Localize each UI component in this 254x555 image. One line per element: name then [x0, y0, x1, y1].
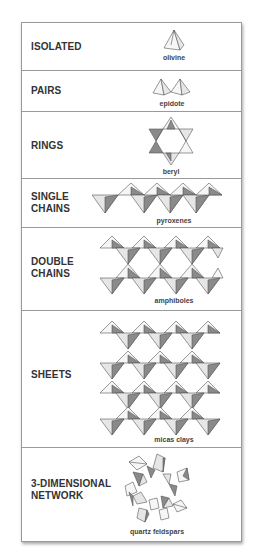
ring-structure-icon — [148, 116, 194, 166]
row-label: PAIRS — [31, 85, 61, 97]
example-mineral: amphiboles — [114, 297, 234, 304]
example-mineral: pyroxenes — [114, 217, 234, 224]
tetrahedron-icon — [162, 28, 186, 52]
row-label: DOUBLE CHAINS — [31, 256, 74, 280]
row-pairs: PAIRS epidote — [22, 70, 241, 111]
example-mineral: epidote — [112, 100, 232, 107]
silicate-structures-table: ISOLATED olivine PAIRS epidote RINGS — [21, 22, 242, 542]
row-label: SHEETS — [31, 369, 72, 381]
row-single-chains: SINGLE CHAINS pyroxenes — [22, 178, 241, 227]
tetrahedron-pair-icon — [152, 77, 192, 97]
example-mineral: micas clays — [114, 436, 234, 443]
example-mineral: beryl — [111, 168, 231, 175]
row-sheets: SHEETS m — [22, 310, 241, 447]
row-label: 3-DIMENSIONAL NETWORK — [31, 478, 111, 502]
framework-structure-icon — [119, 452, 195, 524]
single-chain-icon — [92, 183, 224, 217]
row-isolated: ISOLATED olivine — [22, 23, 241, 70]
example-mineral: quartz feldspars — [97, 528, 217, 535]
row-label: ISOLATED — [31, 41, 82, 53]
row-label: RINGS — [31, 140, 63, 152]
row-rings: RINGS beryl — [22, 111, 241, 178]
row-double-chains: DOUBLE CHAINS — [22, 227, 241, 310]
row-3d-network: 3-DIMENSIONAL NETWORK quartz feldsp — [22, 447, 241, 543]
double-chain-icon — [92, 234, 224, 296]
sheet-structure-icon — [92, 319, 224, 435]
example-mineral: olivine — [114, 54, 234, 61]
row-label: SINGLE CHAINS — [31, 191, 70, 215]
